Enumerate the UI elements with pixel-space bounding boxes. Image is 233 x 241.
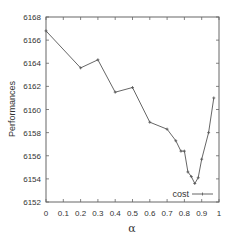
- y-tick-label: 6160: [23, 106, 41, 115]
- plot-border: [46, 17, 219, 202]
- y-tick-label: 6152: [23, 198, 41, 207]
- y-tick-label: 6158: [23, 129, 41, 138]
- legend-line-sample: [192, 193, 213, 196]
- y-tick-label: 6168: [23, 13, 41, 22]
- x-tick-label: 0.3: [92, 209, 104, 218]
- x-tick-label: 0.6: [144, 209, 156, 218]
- line-chart: 615261546156615861606162616461666168 00.…: [0, 0, 233, 241]
- x-axis-title: α: [128, 222, 136, 235]
- y-axis-title: Performances: [7, 80, 17, 137]
- x-tick-label: 0.9: [196, 209, 208, 218]
- y-axis-tick-labels: 615261546156615861606162616461666168: [23, 13, 41, 207]
- x-tick-label: 0.8: [179, 209, 191, 218]
- x-tick-label: 0.7: [162, 209, 174, 218]
- plot-frame: [46, 17, 219, 202]
- y-tick-label: 6164: [23, 59, 41, 68]
- series-line: [46, 31, 214, 184]
- y-tick-label: 6162: [23, 82, 41, 91]
- x-tick-label: 0.2: [75, 209, 87, 218]
- legend-label-cost: cost: [172, 189, 189, 199]
- x-axis-tick-labels: 00.10.20.30.40.50.60.70.80.91: [44, 209, 222, 218]
- y-tick-label: 6154: [23, 175, 41, 184]
- x-tick-label: 1: [217, 209, 222, 218]
- axis-ticks: [46, 17, 219, 202]
- y-tick-label: 6156: [23, 152, 41, 161]
- x-tick-label: 0.1: [58, 209, 70, 218]
- x-tick-label: 0.4: [110, 209, 122, 218]
- legend: cost: [172, 189, 213, 199]
- data-series-cost: [45, 29, 216, 185]
- y-tick-label: 6166: [23, 36, 41, 45]
- x-tick-label: 0: [44, 209, 49, 218]
- x-tick-label: 0.5: [127, 209, 139, 218]
